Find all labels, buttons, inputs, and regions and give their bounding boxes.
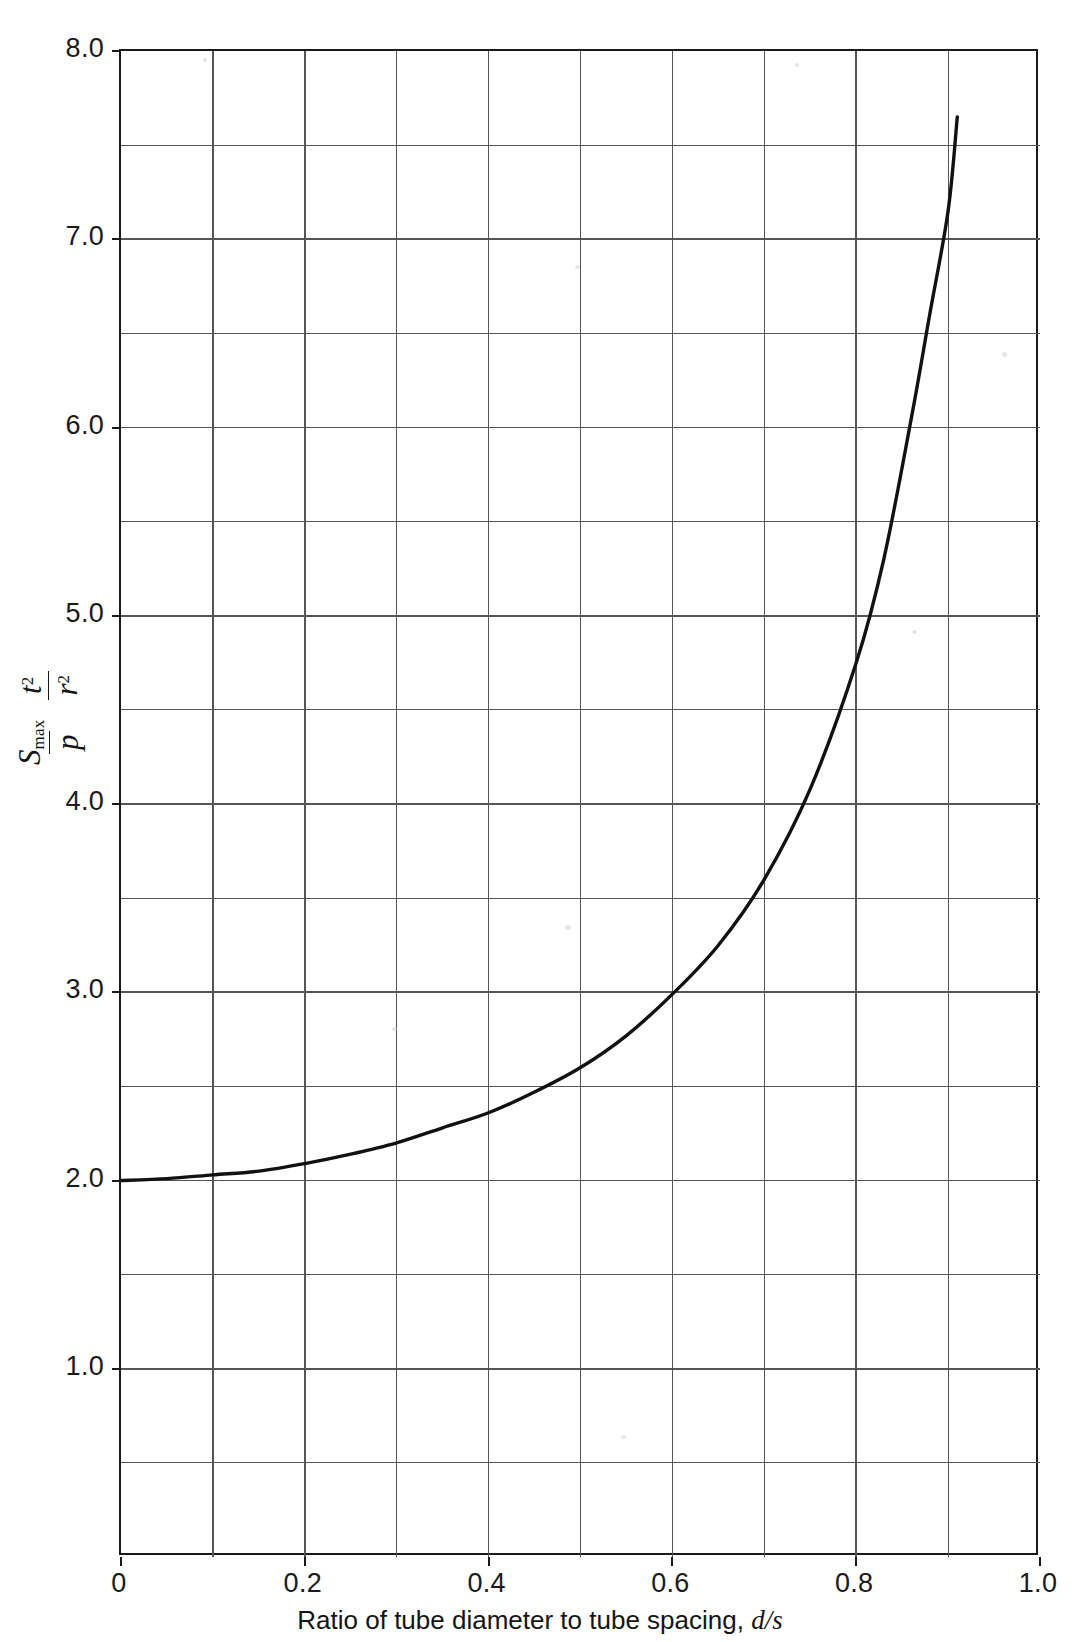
- x-axis-title-symbol: d/s: [751, 1605, 783, 1635]
- scan-speck: [1002, 352, 1007, 357]
- scan-speck: [912, 630, 917, 634]
- y-axis-title-fraction-2: t2 r2: [15, 671, 82, 700]
- x-axis-title-text: Ratio of tube diameter to tube spacing,: [297, 1605, 744, 1635]
- y-axis-title-fraction-1: Smax p: [14, 716, 83, 769]
- y-tick-label: 2.0: [42, 1165, 104, 1192]
- y-tick-label: 7.0: [42, 223, 104, 250]
- y-axis-title: Smax p t2 r2: [18, 610, 78, 830]
- x-tick-label: 0.8: [804, 1570, 904, 1597]
- x-axis-title: Ratio of tube diameter to tube spacing, …: [0, 1605, 1080, 1635]
- y-axis-title-numerator-2: t2: [15, 673, 48, 698]
- y-axis-title-denominator-1: p: [49, 731, 83, 755]
- y-axis-title-denominator-2: r2: [48, 671, 82, 700]
- x-tick-label: 0.2: [253, 1570, 353, 1597]
- x-tick-label: 0.4: [437, 1570, 537, 1597]
- x-axis-tick-labels: 00.20.40.60.81.0: [0, 1570, 1080, 1610]
- scan-speck: [621, 1435, 626, 1439]
- x-tick-label: 0: [69, 1570, 169, 1597]
- scan-speck: [203, 58, 207, 62]
- scan-speck: [575, 265, 580, 269]
- figure-chart: 1.02.03.04.05.06.07.08.0 Smax p t2 r2 00…: [0, 0, 1080, 1642]
- y-tick-label: 1.0: [42, 1353, 104, 1380]
- scan-speck: [565, 925, 571, 930]
- y-tick-label: 3.0: [42, 976, 104, 1003]
- y-axis-title-numerator-1: Smax: [14, 716, 49, 769]
- y-tick-label: 6.0: [42, 412, 104, 439]
- plot-area: [119, 49, 1038, 1555]
- scan-speck: [795, 63, 799, 67]
- y-tick-label: 8.0: [42, 35, 104, 62]
- scan-speck: [392, 1027, 397, 1031]
- axis-tick-marks: [121, 51, 1040, 1557]
- x-tick-label: 0.6: [620, 1570, 720, 1597]
- x-tick-label: 1.0: [988, 1570, 1080, 1597]
